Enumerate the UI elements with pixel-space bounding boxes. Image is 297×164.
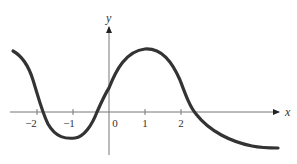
x-tick-label: 2 [178, 117, 184, 129]
function-curve [13, 49, 278, 148]
x-tick-label: 0 [112, 117, 118, 129]
x-axis-label: x [284, 105, 291, 119]
x-tick-label: −2 [25, 117, 37, 129]
function-graph: −2 −1 0 1 2 x y [0, 0, 297, 164]
y-axis-label: y [105, 11, 112, 25]
x-tick-label: −1 [63, 117, 75, 129]
x-tick-label: 1 [142, 117, 148, 129]
